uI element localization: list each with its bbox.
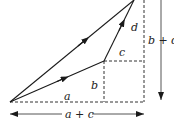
- resultant-vector-line: [10, 0, 134, 102]
- label-a-plus-c: a + c: [65, 108, 94, 121]
- label-b-plus-d: b + d: [148, 34, 174, 47]
- label-a: a: [64, 90, 71, 103]
- second-vector-arrowhead: [119, 23, 123, 31]
- label-c: c: [119, 46, 125, 59]
- resultant-vector-arrowhead: [78, 40, 86, 47]
- label-b: b: [91, 79, 98, 92]
- label-d: d: [131, 21, 138, 34]
- first-vector-arrowhead: [57, 78, 65, 82]
- vector-diagram: a b c d a + c b + d: [0, 0, 174, 129]
